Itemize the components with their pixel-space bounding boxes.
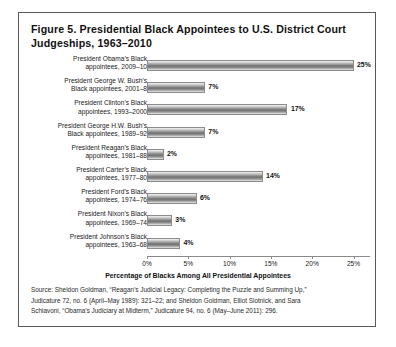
category-label: President Reagan’s Black appointees, 198… [27,144,147,160]
chart-row: President Ford’s Black appointees, 1974–… [19,189,377,211]
chart-row: President Clinton’s Black appointees, 19… [19,100,377,122]
bar-value-label: 6% [200,194,210,201]
x-axis-tick-label: 25% [347,260,360,267]
source-line: Judicature 72, no. 6 (April–May 1989): 3… [31,296,367,307]
chart-row: President Obama’s Black appointees, 2009… [19,56,377,78]
x-axis-tick-label: 10% [223,260,236,267]
x-axis-tick [354,256,355,259]
x-axis-tick [147,256,148,259]
bar[interactable] [147,149,164,160]
category-label: President George H.W. Bush’s Black appoi… [27,122,147,138]
category-label: President Ford’s Black appointees, 1974–… [27,188,147,204]
category-label: President George W. Bush’s Black appoint… [27,77,147,93]
chart-row: President Reagan’s Black appointees, 198… [19,145,377,167]
x-axis-tick-label: 0% [142,260,152,267]
chart-plot-area: President Obama’s Black appointees, 2009… [19,56,377,261]
chart-row: President Carter’s Black appointees, 197… [19,167,377,189]
bar[interactable] [147,127,205,138]
x-axis-tick-label: 5% [184,260,194,267]
bar-track: 6% [147,193,370,204]
bar[interactable] [147,60,354,71]
x-axis-tick [188,256,189,259]
chart-row: President George H.W. Bush’s Black appoi… [19,123,377,145]
bar-track: 3% [147,215,370,226]
x-axis-line [147,256,370,257]
bar-track: 7% [147,127,370,138]
chart-row: President Johnson’s Black appointees, 19… [19,234,377,256]
bar-track: 25% [147,60,370,71]
bar[interactable] [147,171,263,182]
figure-container: Figure 5. Presidential Black Appointees … [18,12,376,327]
bar-track: 2% [147,149,370,160]
bar-track: 14% [147,171,370,182]
bar[interactable] [147,82,205,93]
bar-value-label: 7% [208,83,218,90]
bar[interactable] [147,104,287,115]
bar-value-label: 7% [208,128,218,135]
bar[interactable] [147,238,180,249]
x-axis-tick [271,256,272,259]
category-label: President Johnson’s Black appointees, 19… [27,233,147,249]
category-label: President Carter’s Black appointees, 197… [27,166,147,182]
bar[interactable] [147,215,172,226]
source-note: Source: Sheldon Goldman, “Reagan’s Judic… [31,285,367,317]
bar-value-label: 3% [175,216,185,223]
category-label: President Nixon’s Black appointees, 1969… [27,210,147,226]
category-label: President Clinton’s Black appointees, 19… [27,99,147,115]
figure-title: Figure 5. Presidential Black Appointees … [31,22,351,50]
chart-row: President George W. Bush’s Black appoint… [19,78,377,100]
category-label: President Obama’s Black appointees, 2009… [27,55,147,71]
bar-value-label: 25% [357,61,371,68]
x-axis-title: Percentage of Blacks Among All President… [19,272,377,279]
bar-track: 17% [147,104,370,115]
chart-row: President Nixon’s Black appointees, 1969… [19,211,377,233]
x-axis-tick [230,256,231,259]
bar-track: 4% [147,238,370,249]
x-axis-tick [312,256,313,259]
bar-track: 7% [147,82,370,93]
bar-value-label: 17% [291,105,305,112]
x-axis-tick-label: 15% [264,260,277,267]
bar[interactable] [147,193,197,204]
x-axis-tick-label: 20% [306,260,319,267]
bar-value-label: 14% [266,172,280,179]
source-line: Schiavoni, “Obama’s Judiciary at Midterm… [31,306,367,317]
bar-value-label: 2% [167,150,177,157]
bar-value-label: 4% [184,239,194,246]
source-line: Source: Sheldon Goldman, “Reagan’s Judic… [31,285,367,296]
